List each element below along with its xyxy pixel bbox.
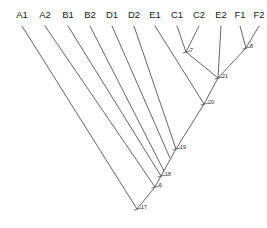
branch-C1-to-n7 (177, 26, 186, 52)
leaf-label-f1: F1 (234, 9, 245, 20)
internal-node-label-19: 19 (180, 144, 186, 150)
leaf-label-c1: C1 (171, 9, 183, 20)
branch-B1-to-n18 (68, 26, 161, 176)
branch-E2-to-n21 (218, 26, 221, 78)
leaf-label-layer: A1A2B1B2D1D2E1C1C2E2F1F2 (16, 9, 264, 20)
branch-A1-to-root (22, 26, 137, 209)
tree-canvas: A1A2B1B2D1D2E1C1C2E2F1F2 7821201918617 (0, 0, 267, 228)
branch-n7-to-n21 (186, 52, 218, 78)
internal-node-label-21: 21 (222, 73, 228, 79)
internal-node-label-7: 7 (190, 47, 193, 53)
phylogenetic-tree-figure: A1A2B1B2D1D2E1C1C2E2F1F2 7821201918617 (0, 0, 267, 228)
node-tick-layer (134, 47, 250, 210)
leaf-label-b2: B2 (84, 9, 96, 20)
branch-E1-to-n20 (155, 26, 204, 104)
internal-node-label-20: 20 (208, 99, 214, 105)
internal-node-label-18: 18 (165, 171, 171, 177)
leaf-label-e2: E2 (215, 9, 227, 20)
branch-B2-to-n18 (90, 26, 164, 171)
node-label-layer: 7821201918617 (141, 43, 253, 210)
leaf-label-a2: A2 (39, 9, 51, 20)
leaf-label-c2: C2 (193, 9, 205, 20)
leaf-label-a1: A1 (16, 9, 28, 20)
leaf-label-d1: D1 (106, 9, 118, 20)
branch-A2-to-n6 (45, 26, 155, 187)
branch-n20-to-n19 (176, 104, 204, 149)
leaf-label-b1: B1 (62, 9, 74, 20)
internal-node-label-8: 8 (250, 43, 253, 49)
branch-F1-to-n8 (240, 26, 246, 48)
leaf-label-f2: F2 (253, 9, 264, 20)
leaf-label-d2: D2 (128, 9, 140, 20)
leaf-label-e1: E1 (149, 9, 161, 20)
branch-D2-to-n19 (134, 26, 176, 149)
internal-node-label-6: 6 (159, 182, 162, 188)
internal-node-label-17: 17 (141, 204, 147, 210)
branch-layer (22, 26, 259, 209)
